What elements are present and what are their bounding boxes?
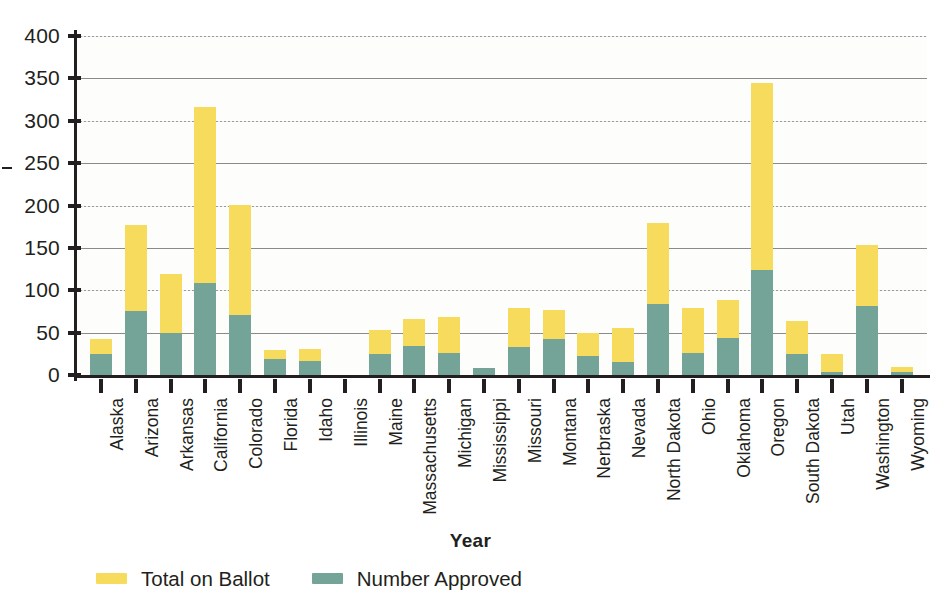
legend-item[interactable]: Total on Ballot [96,568,270,589]
bar-nevada[interactable] [612,36,634,375]
y-axis-tick-label: 150 [8,237,60,258]
x-axis-label-massachusetts: Massachusetts [421,398,439,515]
bar-massachusetts[interactable] [403,36,425,375]
y-axis-tick [68,246,81,250]
x-axis-tick [865,379,869,393]
y-axis-tick [68,119,81,123]
x-axis-line [74,375,930,378]
y-axis-tick [68,204,81,208]
bar-utah[interactable] [821,36,843,375]
x-axis-label-maine: Maine [387,398,405,446]
x-axis-label-oklahoma: Oklahoma [735,398,753,478]
bar-segment-number-approved [194,283,216,375]
x-axis-label-arizona: Arizona [143,398,161,457]
bar-colorado[interactable] [229,36,251,375]
x-axis-label-idaho: Idaho [317,398,335,442]
bar-segment-number-approved [264,359,286,375]
bar-alaska[interactable] [90,36,112,375]
bar-segment-number-approved [299,361,321,375]
y-axis-tick-label: 350 [8,67,60,88]
legend-item[interactable]: Number Approved [312,568,522,589]
bar-segment-number-approved [369,354,391,375]
x-axis-title: Year [0,530,941,552]
bar-segment-total-on-ballot [647,223,669,304]
y-axis-tick-label: 300 [8,110,60,131]
bar-arizona[interactable] [125,36,147,375]
bar-washington[interactable] [856,36,878,375]
bar-north-dakota[interactable] [647,36,669,375]
bar-segment-number-approved [856,306,878,375]
x-axis-tick [621,379,625,393]
y-axis-tick [68,161,81,165]
bar-segment-number-approved [438,353,460,375]
bar-ohio[interactable] [682,36,704,375]
bar-montana[interactable] [543,36,565,375]
bar-south-dakota[interactable] [786,36,808,375]
bar-segment-total-on-ballot [508,308,530,347]
bar-florida[interactable] [264,36,286,375]
bar-segment-number-approved [577,356,599,375]
bar-oregon[interactable] [751,36,773,375]
x-axis-label-illinois: Illinois [352,398,370,447]
x-axis-label-north-dakota: North Dakota [665,398,683,501]
legend-swatch-icon [312,573,343,584]
bar-arkansas[interactable] [160,36,182,375]
x-axis-tick [900,379,904,393]
bar-missouri[interactable] [508,36,530,375]
bar-nerbraska[interactable] [577,36,599,375]
bar-segment-total-on-ballot [438,317,460,353]
y-axis-tick [68,331,81,335]
x-axis-tick [726,379,730,393]
bar-segment-number-approved [891,372,913,375]
y-axis-tick-label: 250 [8,152,60,173]
x-axis-label-utah: Utah [839,398,857,435]
bar-segment-total-on-ballot [786,321,808,354]
bar-california[interactable] [194,36,216,375]
legend-label: Number Approved [357,568,522,589]
x-axis-label-florida: Florida [282,398,300,452]
bar-michigan[interactable] [438,36,460,375]
bar-segment-total-on-ballot [299,349,321,361]
bar-segment-total-on-ballot [751,83,773,270]
x-axis-tick [169,379,173,393]
x-axis-label-washington: Washington [874,398,892,490]
y-axis-tick-label: 100 [8,279,60,300]
bar-segment-total-on-ballot [403,319,425,346]
bar-segment-total-on-ballot [821,354,843,372]
x-axis-tick [830,379,834,393]
bar-segment-total-on-ballot [125,225,147,311]
bar-idaho[interactable] [299,36,321,375]
bar-maine[interactable] [369,36,391,375]
x-axis-label-oregon: Oregon [769,398,787,456]
bar-segment-number-approved [786,354,808,375]
x-axis-label-ohio: Ohio [700,398,718,435]
bar-segment-number-approved [612,362,634,375]
x-axis-tick [378,379,382,393]
bar-segment-total-on-ballot [856,245,878,307]
x-axis-label-michigan: Michigan [456,398,474,468]
bar-segment-number-approved [682,353,704,375]
x-axis-label-arkansas: Arkansas [178,398,196,471]
x-axis-tick [691,379,695,393]
x-axis-tick [308,379,312,393]
bar-segment-total-on-ballot [577,333,599,356]
stacked-bar-chart: 050100150200250300350400 AlaskaArizonaAr… [0,0,941,616]
bar-segment-total-on-ballot [194,107,216,283]
y-axis-tick-label: 0 [8,364,60,385]
bar-segment-number-approved [508,347,530,375]
bar-segment-total-on-ballot [264,350,286,359]
bar-segment-number-approved [543,339,565,375]
x-axis-label-nerbraska: Nerbraska [595,398,613,479]
y-axis-tick-label: 400 [8,25,60,46]
x-axis-tick [656,379,660,393]
x-axis-label-colorado: Colorado [247,398,265,469]
bar-segment-number-approved [160,333,182,375]
bar-mississippi[interactable] [473,36,495,375]
x-axis-label-mississippi: Mississippi [491,398,509,483]
x-axis-label-alaska: Alaska [108,398,126,451]
bar-wyoming[interactable] [891,36,913,375]
bar-oklahoma[interactable] [717,36,739,375]
bar-segment-total-on-ballot [229,205,251,315]
x-axis-label-south-dakota: South Dakota [804,398,822,504]
bar-illinois[interactable] [334,36,356,375]
